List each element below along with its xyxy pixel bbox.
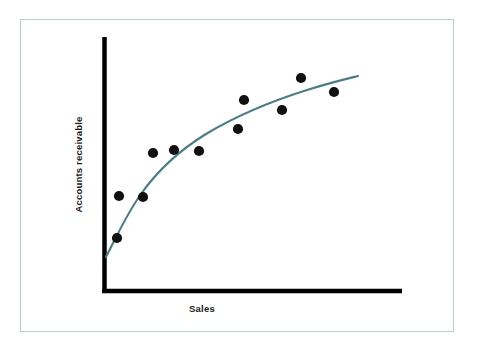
data-point: [194, 146, 204, 156]
y-axis-label-wrapper: Accounts receivable: [70, 37, 86, 292]
data-point: [114, 191, 124, 201]
data-point: [277, 105, 287, 115]
data-point: [329, 87, 339, 97]
data-point: [239, 95, 249, 105]
trend-curve: [106, 76, 358, 257]
data-point: [138, 192, 148, 202]
x-axis-label: Sales: [0, 303, 404, 314]
y-axis-label: Accounts receivable: [73, 116, 84, 212]
chart-page: Accounts receivable Sales: [0, 0, 481, 352]
data-point-group: [112, 73, 339, 243]
data-point: [296, 73, 306, 83]
data-point: [112, 233, 122, 243]
data-point: [148, 148, 158, 158]
data-point: [233, 124, 243, 134]
data-point: [169, 145, 179, 155]
